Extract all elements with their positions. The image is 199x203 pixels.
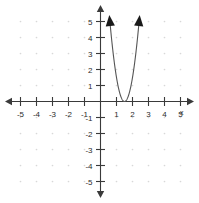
x-axis-tick-label: 2 xyxy=(130,110,135,119)
grid-dot xyxy=(180,133,182,135)
grid-dot xyxy=(20,21,22,23)
grid-dot xyxy=(132,53,134,55)
grid-dot xyxy=(36,37,38,39)
grid-dot xyxy=(164,53,166,55)
grid-dot xyxy=(164,133,166,135)
grid-dot xyxy=(164,85,166,87)
y-axis-tick-label: -5 xyxy=(85,178,93,187)
grid-dot xyxy=(116,85,118,87)
grid-dot xyxy=(20,37,22,39)
grid-dot xyxy=(20,85,22,87)
grid-dot xyxy=(164,37,166,39)
grid-dot xyxy=(36,133,38,135)
x-axis-name-label: x xyxy=(180,109,184,116)
grid-dot xyxy=(180,37,182,39)
grid-dot xyxy=(36,165,38,167)
grid-dot xyxy=(132,133,134,135)
grid-dot xyxy=(132,181,134,183)
graph-canvas: -5-4-3-2-112345 54321-1-2-3-4-5 x xyxy=(0,0,199,203)
axes-layer xyxy=(5,5,194,198)
y-axis-tick-label: 2 xyxy=(88,66,93,75)
y-axis-tick-label: 3 xyxy=(88,50,93,59)
grid-dot xyxy=(68,37,70,39)
grid-dot xyxy=(20,53,22,55)
grid-dot xyxy=(68,21,70,23)
grid-dot xyxy=(116,181,118,183)
x-axis-arrow-left xyxy=(5,98,12,105)
grid-dot xyxy=(20,149,22,151)
grid-dot xyxy=(116,21,118,23)
grid-dot xyxy=(116,133,118,135)
grid-dot xyxy=(148,37,150,39)
grid-dot xyxy=(164,149,166,151)
x-axis-tick-label: -4 xyxy=(33,110,41,119)
grid-dot xyxy=(68,69,70,71)
grid-dot xyxy=(20,69,22,71)
grid-dot xyxy=(84,37,86,39)
grid-dot xyxy=(52,165,54,167)
grid-dot xyxy=(180,69,182,71)
grid-dot xyxy=(36,85,38,87)
x-axis-tick-label: 3 xyxy=(146,110,151,119)
grid-dot xyxy=(148,149,150,151)
grid-dot xyxy=(148,21,150,23)
y-axis-tick-label: 4 xyxy=(88,34,93,43)
grid-dot xyxy=(68,53,70,55)
grid-dot xyxy=(148,133,150,135)
y-axis-arrow-down xyxy=(97,191,104,198)
x-axis-tick-label: -5 xyxy=(17,110,25,119)
grid-dot xyxy=(84,69,86,71)
grid-dot xyxy=(52,21,54,23)
grid-dot xyxy=(180,181,182,183)
y-axis-tick-label: 5 xyxy=(88,18,93,27)
x-axis-tick-label: 4 xyxy=(162,110,167,119)
grid-dot xyxy=(148,69,150,71)
coordinate-plane-figure: -5-4-3-2-112345 54321-1-2-3-4-5 x xyxy=(0,0,199,203)
grid-dot xyxy=(132,149,134,151)
y-axis-tick-label: -1 xyxy=(85,114,93,123)
y-axis-arrow-up xyxy=(97,5,104,12)
parabola-path xyxy=(110,22,139,102)
y-axis-tick-label: -4 xyxy=(85,162,93,171)
grid-dot xyxy=(52,149,54,151)
parabola-left-branch-arrowhead xyxy=(106,15,115,26)
grid-dot xyxy=(68,133,70,135)
grid-dot xyxy=(132,37,134,39)
grid-dot xyxy=(180,21,182,23)
grid-dot xyxy=(132,165,134,167)
grid-dot xyxy=(36,21,38,23)
grid-dot xyxy=(68,165,70,167)
grid-dot xyxy=(52,85,54,87)
grid-dot xyxy=(20,181,22,183)
grid-dot xyxy=(164,165,166,167)
parabola-curve-layer xyxy=(106,15,144,101)
grid-dot xyxy=(180,53,182,55)
grid-dot xyxy=(36,53,38,55)
grid-dot xyxy=(84,21,86,23)
x-axis-tick-label: -3 xyxy=(49,110,57,119)
grid-dot xyxy=(20,133,22,135)
grid-dot xyxy=(148,181,150,183)
grid-dot xyxy=(68,181,70,183)
grid-dot xyxy=(52,37,54,39)
grid-dot xyxy=(180,149,182,151)
y-axis-tick-label: 1 xyxy=(88,82,93,91)
x-axis-tick-label: -2 xyxy=(65,110,73,119)
grid-dot xyxy=(84,53,86,55)
grid-dot xyxy=(132,21,134,23)
grid-dot xyxy=(68,85,70,87)
grid-dot xyxy=(164,69,166,71)
grid-dot xyxy=(52,53,54,55)
grid-dot xyxy=(148,85,150,87)
grid-dot xyxy=(164,181,166,183)
grid-dot xyxy=(116,165,118,167)
grid-dot xyxy=(180,165,182,167)
x-axis-arrow-right xyxy=(187,98,194,105)
grid-dot xyxy=(52,181,54,183)
parabola-right-branch-arrowhead xyxy=(134,15,143,26)
grid-dot xyxy=(36,69,38,71)
y-axis-tick-label: -2 xyxy=(85,130,93,139)
grid-dot xyxy=(116,37,118,39)
grid-dot xyxy=(132,85,134,87)
grid-dot xyxy=(180,85,182,87)
